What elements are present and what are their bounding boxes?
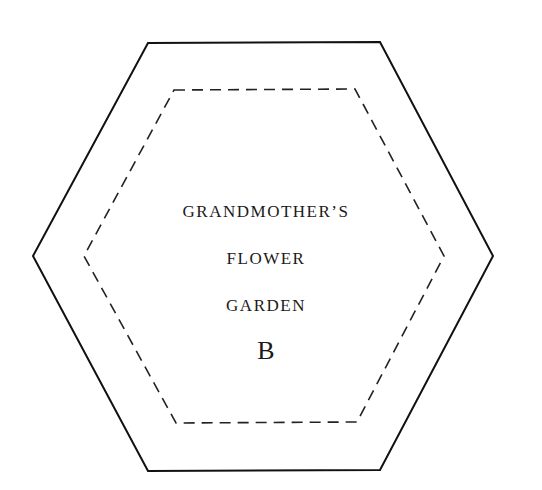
piece-letter: B xyxy=(257,336,274,365)
hexagon-template: GRANDMOTHER’S FLOWER GARDEN B xyxy=(0,0,542,490)
title-line-2: FLOWER xyxy=(227,249,306,268)
title-line-1: GRANDMOTHER’S xyxy=(183,202,350,221)
title-line-3: GARDEN xyxy=(226,296,306,315)
